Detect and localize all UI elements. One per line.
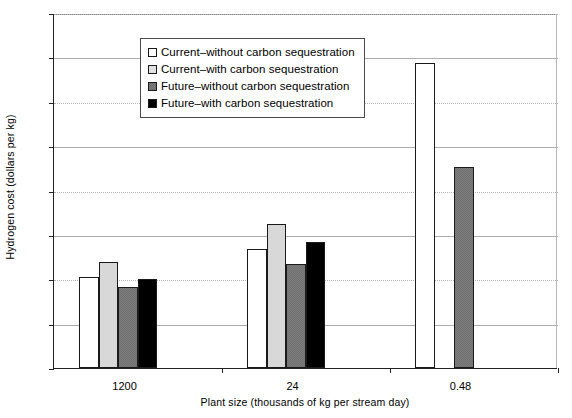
legend-swatch-icon — [148, 48, 157, 57]
y-axis-tick — [49, 58, 54, 59]
x-axis-title: Plant size (thousands of kg per stream d… — [53, 396, 557, 408]
x-axis-tick-label: 1200 — [80, 380, 170, 392]
gridline — [54, 192, 558, 193]
y-axis-tick — [49, 325, 54, 326]
gridline — [54, 147, 558, 148]
x-axis-tick — [390, 368, 391, 373]
y-axis-tick — [49, 147, 54, 148]
bar — [267, 224, 287, 368]
y-axis-tick — [49, 14, 54, 15]
legend-label: Future–with carbon sequestration — [161, 97, 333, 110]
legend-swatch-icon — [148, 65, 157, 74]
x-axis-tick — [222, 368, 223, 373]
legend-item: Future–without carbon sequestration — [148, 78, 355, 95]
y-axis-tick — [49, 192, 54, 193]
gridline — [54, 236, 558, 237]
x-axis-tick-label: 0.48 — [416, 380, 506, 392]
chart-legend: Current–without carbon sequestration Cur… — [140, 38, 365, 118]
gridline — [54, 14, 558, 15]
y-axis-tick — [49, 236, 54, 237]
bar — [138, 279, 158, 368]
legend-item: Current–without carbon sequestration — [148, 44, 355, 61]
legend-label: Current–without carbon sequestration — [161, 46, 355, 59]
legend-swatch-icon — [148, 82, 157, 91]
bar — [79, 277, 99, 368]
bar — [118, 287, 138, 368]
bar — [286, 264, 306, 368]
bar — [415, 63, 435, 368]
bar — [99, 262, 119, 369]
y-axis-title: Hydrogen cost (dollars per kg) — [4, 115, 16, 260]
x-axis-tick-label: 24 — [248, 380, 338, 392]
bar — [247, 249, 267, 368]
y-axis-tick — [49, 369, 54, 370]
legend-swatch-icon — [148, 99, 157, 108]
bar-chart-figure: 00.511.522.533.54 1200240.48 Hydrogen co… — [0, 0, 572, 418]
legend-label: Current–with carbon sequestration — [161, 63, 338, 76]
x-axis-tick — [558, 368, 559, 373]
legend-item: Future–with carbon sequestration — [148, 95, 355, 112]
y-axis-tick — [49, 280, 54, 281]
legend-item: Current–with carbon sequestration — [148, 61, 355, 78]
y-axis-tick — [49, 103, 54, 104]
bar — [306, 242, 326, 368]
bar — [454, 167, 474, 368]
legend-label: Future–without carbon sequestration — [161, 80, 349, 93]
